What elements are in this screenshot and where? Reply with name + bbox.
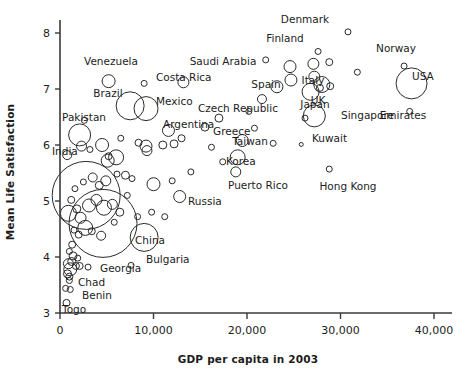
y-tick-label: 5 [43, 195, 50, 208]
point-label-chad: Chad [78, 276, 105, 288]
data-bubble [72, 186, 78, 192]
data-bubble [285, 74, 297, 86]
data-bubble [118, 135, 124, 141]
y-axis-title: Mean Life Satisfaction [4, 104, 16, 241]
data-bubble [87, 146, 93, 152]
x-tick-label: 30,000 [321, 324, 360, 337]
data-bubble-mexico [134, 97, 158, 121]
data-bubble [208, 144, 214, 150]
point-label-puerto-rico: Puerto Rico [228, 179, 288, 191]
data-bubble-georgia [85, 264, 91, 270]
y-tick-label: 7 [43, 83, 50, 96]
point-label-china: China [135, 234, 165, 246]
point-label-mexico: Mexico [156, 95, 193, 107]
data-bubble [109, 150, 124, 165]
point-label-bulgaria: Bulgaria [146, 253, 190, 265]
data-bubble [220, 159, 226, 165]
data-bubble [60, 205, 76, 221]
point-label-india: India [52, 145, 78, 157]
data-bubble-denmark [345, 29, 351, 35]
data-bubble [263, 57, 269, 63]
data-bubble [68, 257, 76, 265]
data-bubble-venezuela [102, 75, 115, 88]
point-label-pakistan: Pakistan [62, 111, 106, 123]
point-label-czech-republic: Czech Republic [198, 102, 278, 114]
data-bubble-singapore [302, 115, 308, 121]
point-label-norway: Norway [376, 42, 416, 54]
data-bubble [88, 173, 97, 182]
data-bubble [354, 69, 360, 75]
point-label-usa: USA [412, 70, 435, 82]
point-label-denmark: Denmark [281, 13, 330, 25]
point-label-venezuela: Venezuela [84, 55, 138, 67]
x-axis-title: GDP per capita in 2003 [178, 353, 319, 365]
data-bubble [80, 179, 86, 185]
data-bubble-finland [315, 48, 321, 54]
point-label-finland: Finland [266, 32, 304, 44]
data-bubble [96, 139, 109, 152]
point-label-singapore: Singapore [341, 109, 394, 121]
data-bubble-puerto-rico [231, 167, 241, 177]
y-tick-label: 6 [43, 139, 50, 152]
data-bubble [129, 176, 135, 182]
x-tick-label: 40,000 [415, 324, 454, 337]
point-label-spain: Spain [251, 78, 280, 90]
data-bubble [68, 196, 75, 203]
data-bubble [174, 191, 186, 203]
y-tick-label: 8 [43, 27, 50, 40]
x-tick-label: 0 [57, 324, 64, 337]
point-label-japan: Japan [299, 98, 329, 110]
x-tick-label: 20,000 [228, 324, 267, 337]
data-bubble [95, 181, 103, 189]
data-bubble [178, 135, 185, 142]
point-label-taiwan: Taiwan [231, 135, 268, 147]
data-bubble [107, 199, 117, 209]
point-label-togo: Togo [61, 303, 86, 315]
point-label-argentina: Argentina [163, 118, 214, 130]
point-label-saudi-arabia: Saudi Arabia [190, 55, 257, 67]
point-label-italy: Italy [302, 74, 325, 86]
data-bubble [82, 199, 95, 212]
data-bubble [121, 171, 129, 179]
data-bubble [97, 231, 106, 240]
data-bubble-hong-kong [326, 166, 332, 172]
data-bubble-kuwait [299, 142, 303, 146]
data-bubble [308, 58, 319, 69]
point-label-georgia: Georgia [100, 262, 141, 274]
data-bubble [114, 171, 120, 177]
data-bubble-norway [401, 63, 407, 69]
data-bubble [111, 219, 117, 225]
data-bubble-pakistan [69, 124, 91, 146]
y-tick-label: 4 [43, 251, 50, 264]
data-bubble [169, 178, 175, 184]
data-bubble [147, 178, 160, 191]
data-bubble [284, 61, 296, 73]
data-bubble [149, 209, 155, 215]
scatter-chart-figure: 345678010,00020,00030,00040,000 Venezuel… [0, 0, 468, 378]
data-bubble [188, 169, 194, 175]
point-label-korea: Korea [226, 155, 256, 167]
point-label-kuwait: Kuwait [312, 132, 347, 144]
data-bubble-czech-republic [215, 114, 223, 122]
y-tick-label: 3 [43, 307, 50, 320]
data-bubble-chad [66, 273, 73, 280]
data-bubble [251, 125, 257, 131]
data-bubble [170, 140, 178, 148]
point-label-costa-rica: Costa Rica [156, 71, 212, 83]
data-bubble [326, 59, 333, 66]
point-label-brazil: Brazil [93, 87, 122, 99]
data-bubble-costa-rica [141, 80, 147, 86]
plot-area: 345678010,00020,00030,00040,000 Venezuel… [0, 0, 468, 378]
data-bubble [159, 141, 167, 149]
x-tick-label: 10,000 [134, 324, 173, 337]
point-labels: VenezuelaCosta RicaSaudi ArabiaDenmarkFi… [52, 13, 435, 315]
point-label-hong-kong: Hong Kong [319, 180, 376, 192]
point-label-benin: Benin [82, 289, 112, 301]
point-label-russia: Russia [188, 195, 222, 207]
data-bubble [101, 154, 114, 167]
data-bubble [101, 176, 111, 186]
data-bubble [162, 214, 168, 220]
data-bubble-taiwan [270, 140, 276, 146]
